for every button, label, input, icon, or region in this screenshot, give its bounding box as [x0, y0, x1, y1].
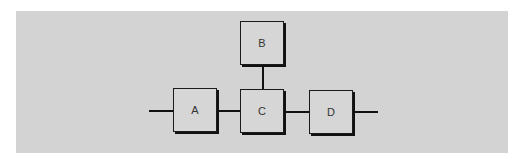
connector-a-c — [219, 110, 240, 112]
connector-b-c — [262, 66, 264, 89]
block-d: D — [309, 90, 353, 134]
output-connector — [355, 111, 378, 113]
connector-c-d — [286, 111, 309, 113]
block-c-label: C — [258, 105, 266, 117]
block-b-label: B — [258, 37, 265, 49]
block-b: B — [240, 21, 284, 65]
block-a-label: A — [191, 104, 198, 116]
input-connector — [149, 110, 173, 112]
block-c: C — [240, 89, 284, 133]
block-d-label: D — [327, 106, 335, 118]
block-a: A — [173, 88, 217, 132]
